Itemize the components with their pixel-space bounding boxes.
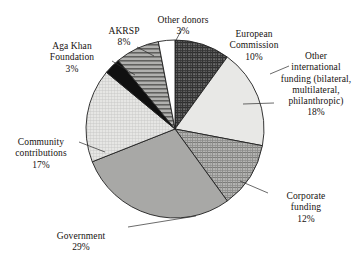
slice-label-akrsp: AKRSP 8% (100, 15, 148, 60)
slice-label-text-other-international-funding: Other international funding (bilateral, … (281, 51, 352, 106)
slice-percent-government: 29% (34, 242, 128, 253)
slice-label-other-donors: Other donors 3% (145, 4, 221, 49)
slice-label-text-community-contributions: Community contributions (15, 137, 66, 158)
slice-percent-akrsp: 8% (100, 37, 148, 48)
slice-label-text-corporate-funding: Corporate funding (287, 191, 326, 212)
leader-line-government (128, 216, 196, 227)
slice-percent-corporate-funding: 12% (269, 214, 343, 225)
slice-label-text-government: Government (57, 231, 106, 241)
slice-percent-other-donors: 3% (145, 26, 221, 37)
slice-label-text-other-donors: Other donors (157, 15, 208, 25)
slice-label-text-aga-khan-foundation: Aga Khan Foundation (50, 41, 94, 62)
slice-percent-community-contributions: 17% (2, 160, 80, 171)
slice-label-community-contributions: Community contributions 17% (2, 126, 80, 182)
leader-line-corporate-funding (240, 181, 268, 193)
slice-label-other-international-funding: Other international funding (bilateral, … (272, 40, 360, 130)
slice-label-corporate-funding: Corporate funding 12% (269, 180, 343, 236)
slice-percent-other-international-funding: 18% (272, 107, 360, 118)
slice-label-text-akrsp: AKRSP (108, 26, 139, 36)
slice-label-government: Government 29% (34, 220, 128, 254)
slice-percent-aga-khan-foundation: 3% (32, 64, 112, 75)
